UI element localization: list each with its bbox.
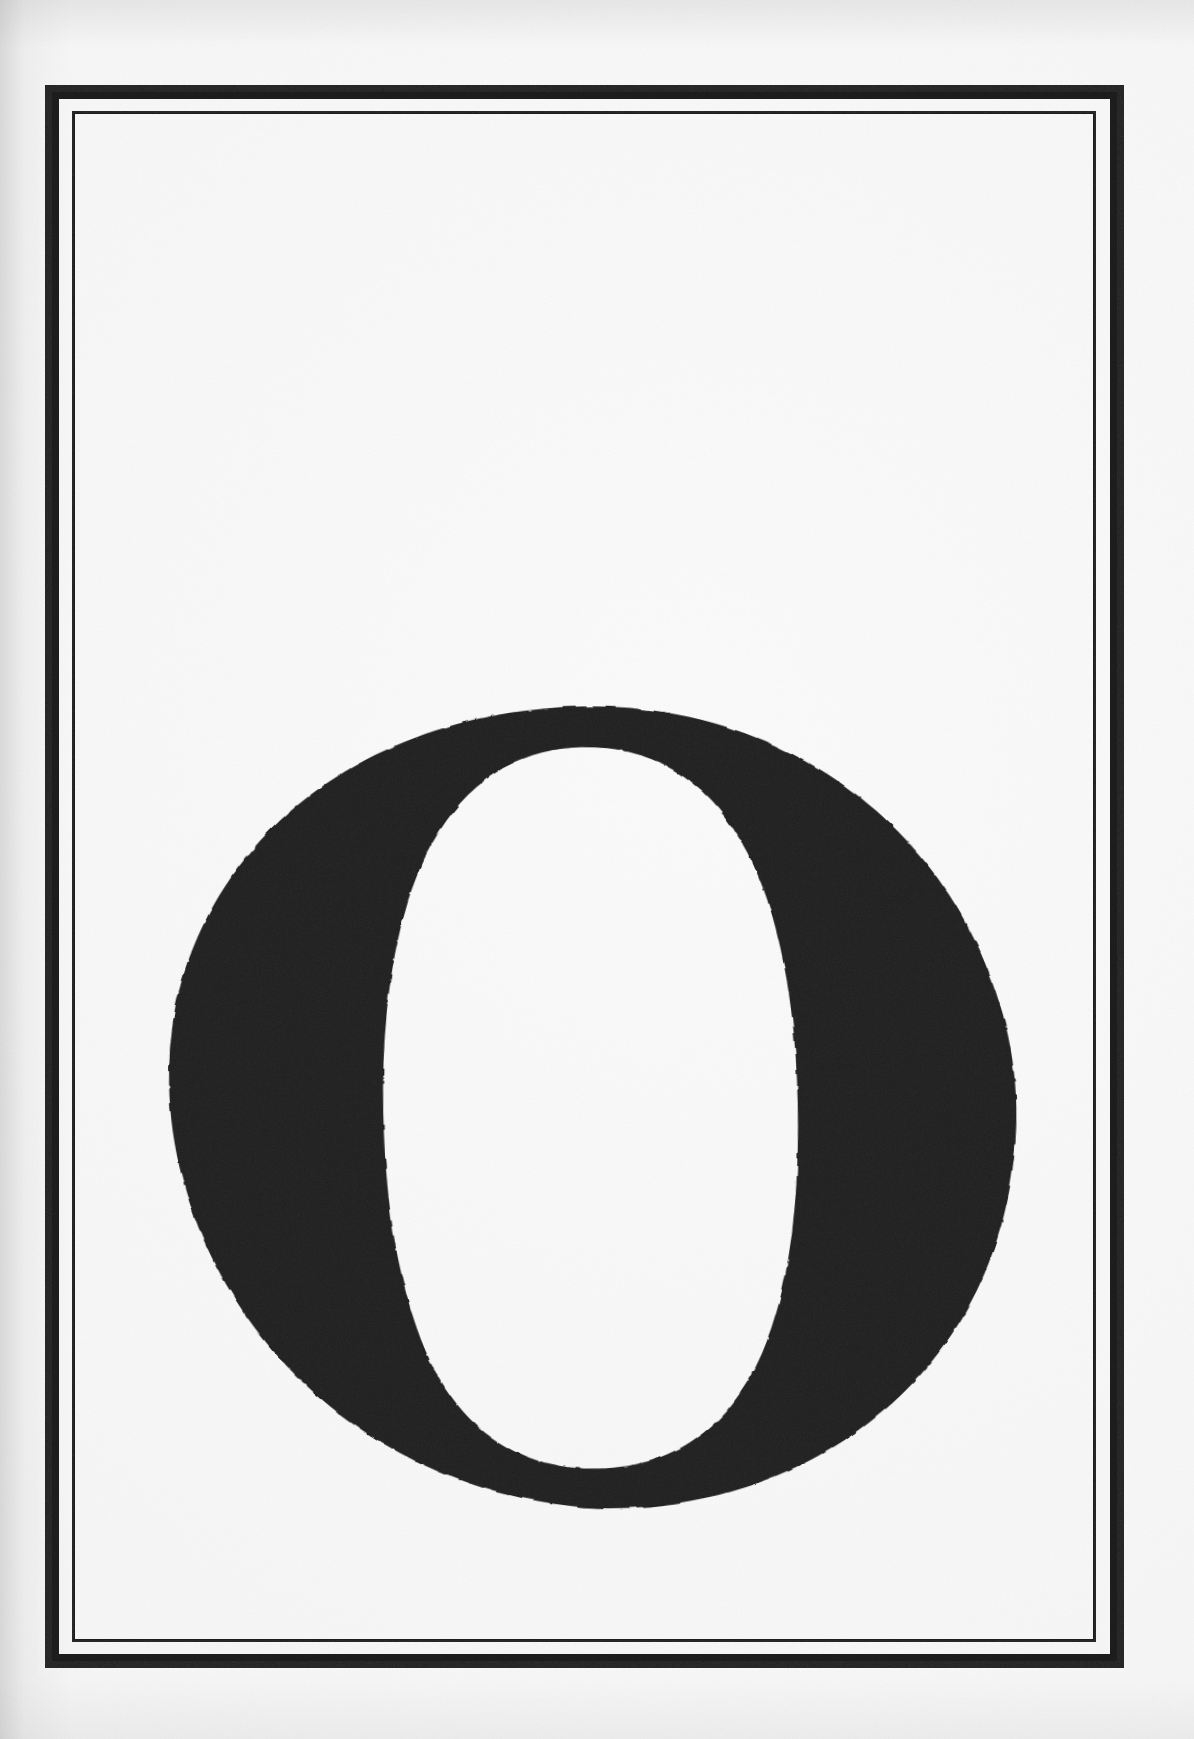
- scan-vignette-top: [0, 0, 1194, 48]
- initial-capital-o-glyph: Full-page engraved initial capital lette…: [155, 700, 1022, 1515]
- scanned-page: Full-page engraved initial capital lette…: [0, 0, 1194, 1739]
- scan-vignette-bottom: [0, 1679, 1194, 1739]
- initial-capital-o: Full-page engraved initial capital lette…: [155, 700, 1022, 1515]
- page-content-area: Full-page engraved initial capital lette…: [76, 115, 1092, 1638]
